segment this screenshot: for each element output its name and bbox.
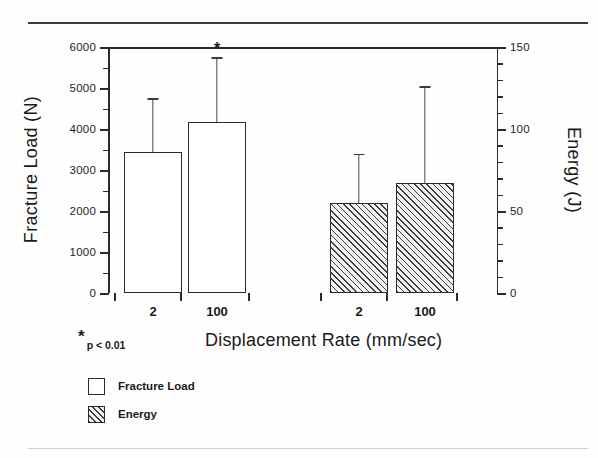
x-axis-line (108, 47, 500, 49)
error-bar-cap-fracture-load-2 (148, 98, 159, 100)
y-axis-left-tick (100, 47, 109, 49)
y-axis-right-title: Energy (J) (560, 47, 586, 293)
x-axis-tick (320, 293, 322, 301)
x-axis-tick (386, 293, 388, 301)
y-axis-right-minor-tick (497, 63, 503, 65)
y-axis-left-tick (100, 170, 109, 172)
page-top-rule (28, 22, 588, 24)
x-axis-tick-label: 100 (206, 304, 228, 319)
y-axis-right-tick (497, 211, 506, 213)
x-axis-tick (456, 293, 458, 301)
legend-label-energy: Energy (118, 408, 157, 420)
y-axis-left-tick-label: 1000 (70, 246, 96, 258)
y-axis-right-minor-tick (497, 113, 503, 115)
y-axis-left-title-text: Fracture Load (N) (21, 96, 42, 243)
y-axis-left-minor-tick (103, 150, 109, 152)
asterisk-icon: * (78, 330, 85, 343)
y-axis-right-tick (497, 129, 506, 131)
y-axis-left-tick (100, 211, 109, 213)
y-axis-left-minor-tick (103, 273, 109, 275)
y-axis-right-minor-tick (497, 277, 503, 279)
y-axis-left-tick-label: 2000 (70, 205, 96, 217)
y-axis-right-tick-label: 100 (510, 123, 530, 135)
x-axis-tick-label: 100 (414, 304, 436, 319)
y-axis-left-tick-label: 0 (89, 287, 96, 299)
legend-item-energy: Energy (88, 400, 195, 428)
y-axis-left-title: Fracture Load (N) (18, 47, 44, 293)
y-axis-left-tick (100, 252, 109, 254)
x-axis-title: Displacement Rate (mm/sec) (205, 330, 442, 351)
y-axis-right-minor-tick (497, 145, 503, 147)
error-bar-fracture-load-2 (152, 98, 153, 151)
y-axis-right-tick (497, 293, 506, 295)
figure-bar-chart: Fracture Load (N) Energy (J) 01000200030… (0, 0, 598, 458)
y-axis-right-minor-tick (497, 244, 503, 246)
x-axis-tick (180, 293, 182, 301)
y-axis-left-tick-label: 5000 (70, 82, 96, 94)
legend-swatch-hatched-square (88, 406, 105, 423)
error-bar-cap-energy-100 (420, 86, 431, 88)
y-axis-right-tick (497, 47, 506, 49)
y-axis-right-line (497, 47, 499, 293)
y-axis-left-tick (100, 88, 109, 90)
bar-fracture-load-2 (124, 152, 182, 293)
x-axis-tick (248, 293, 250, 301)
legend-swatch-open-square (88, 378, 105, 395)
y-axis-left-minor-tick (103, 191, 109, 193)
y-axis-left-tick-label: 6000 (70, 41, 96, 53)
bar-energy-2 (330, 203, 388, 293)
error-bar-cap-fracture-load-100 (212, 57, 223, 59)
y-axis-left-tick (100, 129, 109, 131)
error-bar-energy-100 (424, 86, 425, 183)
legend: Fracture Load Energy (88, 372, 195, 428)
significance-footnote-text: p < 0.01 (87, 339, 126, 351)
error-bar-fracture-load-100 (216, 57, 217, 121)
y-axis-right-tick-label: 0 (510, 287, 517, 299)
y-axis-right-minor-tick (497, 162, 503, 164)
significance-footnote: * p < 0.01 (78, 330, 125, 351)
y-axis-left-tick-label: 3000 (70, 164, 96, 176)
error-bar-cap-energy-2 (354, 154, 365, 156)
legend-item-fracture-load: Fracture Load (88, 372, 195, 400)
plot-area: 01000200030004000500060000501001502*1002… (108, 47, 498, 293)
page-bottom-rule (28, 448, 588, 449)
bar-fracture-load-100 (188, 122, 246, 293)
x-axis-tick (114, 293, 116, 301)
legend-label-fracture-load: Fracture Load (118, 380, 195, 392)
y-axis-left-minor-tick (103, 68, 109, 70)
y-axis-right-tick-label: 50 (510, 205, 523, 217)
y-axis-right-minor-tick (497, 260, 503, 262)
significance-star: * (214, 45, 220, 53)
y-axis-right-minor-tick (497, 96, 503, 98)
y-axis-right-minor-tick (497, 227, 503, 229)
y-axis-left-tick (100, 293, 109, 295)
y-axis-left-tick-label: 4000 (70, 123, 96, 135)
y-axis-left-minor-tick (103, 109, 109, 111)
y-axis-right-title-text: Energy (J) (563, 127, 584, 213)
x-axis-tick-label: 2 (149, 304, 156, 319)
y-axis-left-minor-tick (103, 232, 109, 234)
bar-energy-100 (396, 183, 454, 293)
y-axis-right-tick-label: 150 (510, 41, 530, 53)
y-axis-right-minor-tick (497, 80, 503, 82)
x-axis-tick-label: 2 (355, 304, 362, 319)
error-bar-energy-2 (358, 154, 359, 203)
y-axis-right-minor-tick (497, 195, 503, 197)
y-axis-right-minor-tick (497, 178, 503, 180)
